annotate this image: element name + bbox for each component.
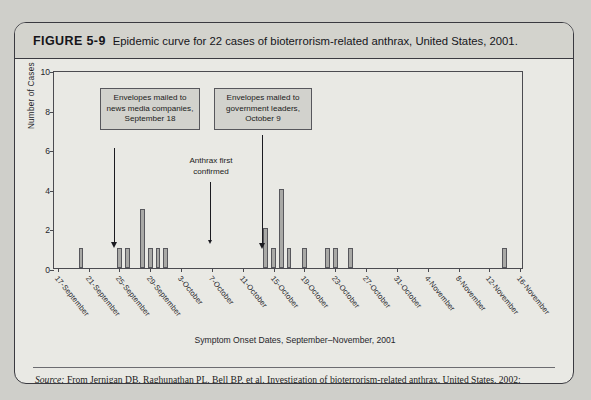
chart-plot-area: Number of Cases 0246810 17-September21-S… — [31, 67, 559, 363]
annotation-anthrax-arrow-head — [208, 240, 212, 244]
x-tick-label: 19-October — [299, 274, 331, 310]
bar — [325, 248, 330, 268]
x-tick-mark — [89, 268, 90, 272]
annotation-news-media: Envelopes mailed to news media companies… — [100, 88, 200, 130]
bar — [117, 248, 122, 268]
x-tick-mark — [366, 268, 367, 272]
figure-title: Epidemic curve for 22 cases of bioterror… — [113, 35, 518, 47]
x-tick-mark — [119, 268, 120, 272]
x-tick-mark — [274, 268, 275, 272]
source-divider — [33, 367, 555, 368]
bar — [148, 248, 153, 268]
x-tick-label: 31-October — [392, 274, 424, 310]
source-line1: From Jernigan DB, Raghunathan PL, Bell B… — [64, 374, 520, 384]
source-label: Source: — [35, 374, 64, 384]
bar — [279, 189, 284, 268]
y-tick-label: 10 — [40, 67, 50, 77]
x-tick-mark — [150, 268, 151, 272]
bar — [333, 248, 338, 268]
y-tick-mark — [50, 112, 54, 113]
y-tick-mark — [50, 72, 54, 73]
x-tick-label: 27-October — [361, 274, 393, 310]
bar — [502, 248, 507, 268]
x-tick-mark — [489, 268, 490, 272]
chart-axes-frame: 0246810 17-September21-September25-Septe… — [53, 71, 523, 269]
annotation-news-media-arrow-head — [111, 242, 117, 248]
y-tick-mark — [50, 230, 54, 231]
x-tick-label: 23-October — [330, 274, 362, 310]
x-tick-mark — [428, 268, 429, 272]
annotation-news-media-arrow-line — [114, 148, 115, 244]
y-tick-mark — [50, 270, 54, 271]
x-tick-label: 4-November — [423, 274, 457, 313]
x-tick-mark — [181, 268, 182, 272]
annotation-anthrax-arrow-line — [210, 182, 211, 242]
x-tick-mark — [397, 268, 398, 272]
x-tick-label: 7-October — [207, 274, 236, 307]
bar — [163, 248, 168, 268]
bar — [271, 248, 276, 268]
x-tick-mark — [520, 268, 521, 272]
annotation-anthrax-confirmed: Anthrax first confirmed — [172, 156, 250, 177]
bar — [302, 248, 307, 268]
annotation-government-arrow-head — [259, 243, 265, 249]
bar — [156, 248, 161, 268]
annotation-government-arrow-line — [262, 135, 263, 245]
bar — [79, 248, 84, 268]
x-tick-label: 3-October — [176, 274, 205, 307]
bar — [140, 209, 145, 268]
y-axis-label: Number of Cases — [27, 62, 36, 129]
x-tick-label: 8-November — [454, 274, 488, 313]
bar — [125, 248, 130, 268]
x-axis-caption: Symptom Onset Dates, September–November,… — [31, 335, 559, 345]
figure-header: FIGURE 5-9 Epidemic curve for 22 cases o… — [15, 23, 573, 59]
x-tick-mark — [58, 268, 59, 272]
x-tick-mark — [335, 268, 336, 272]
bar — [348, 248, 353, 268]
figure-card: FIGURE 5-9 Epidemic curve for 22 cases o… — [14, 22, 574, 384]
x-tick-label: 11-October — [238, 274, 269, 310]
figure-number: FIGURE 5-9 — [33, 34, 106, 48]
y-tick-mark — [50, 191, 54, 192]
x-tick-label: 15-October — [269, 274, 301, 310]
y-tick-mark — [50, 151, 54, 152]
annotation-government: Envelopes mailed to government leaders, … — [214, 88, 312, 130]
x-tick-mark — [212, 268, 213, 272]
x-tick-mark — [304, 268, 305, 272]
source-note: Source: From Jernigan DB, Raghunathan PL… — [35, 373, 553, 384]
x-tick-mark — [243, 268, 244, 272]
x-tick-mark — [459, 268, 460, 272]
bar — [287, 248, 292, 268]
